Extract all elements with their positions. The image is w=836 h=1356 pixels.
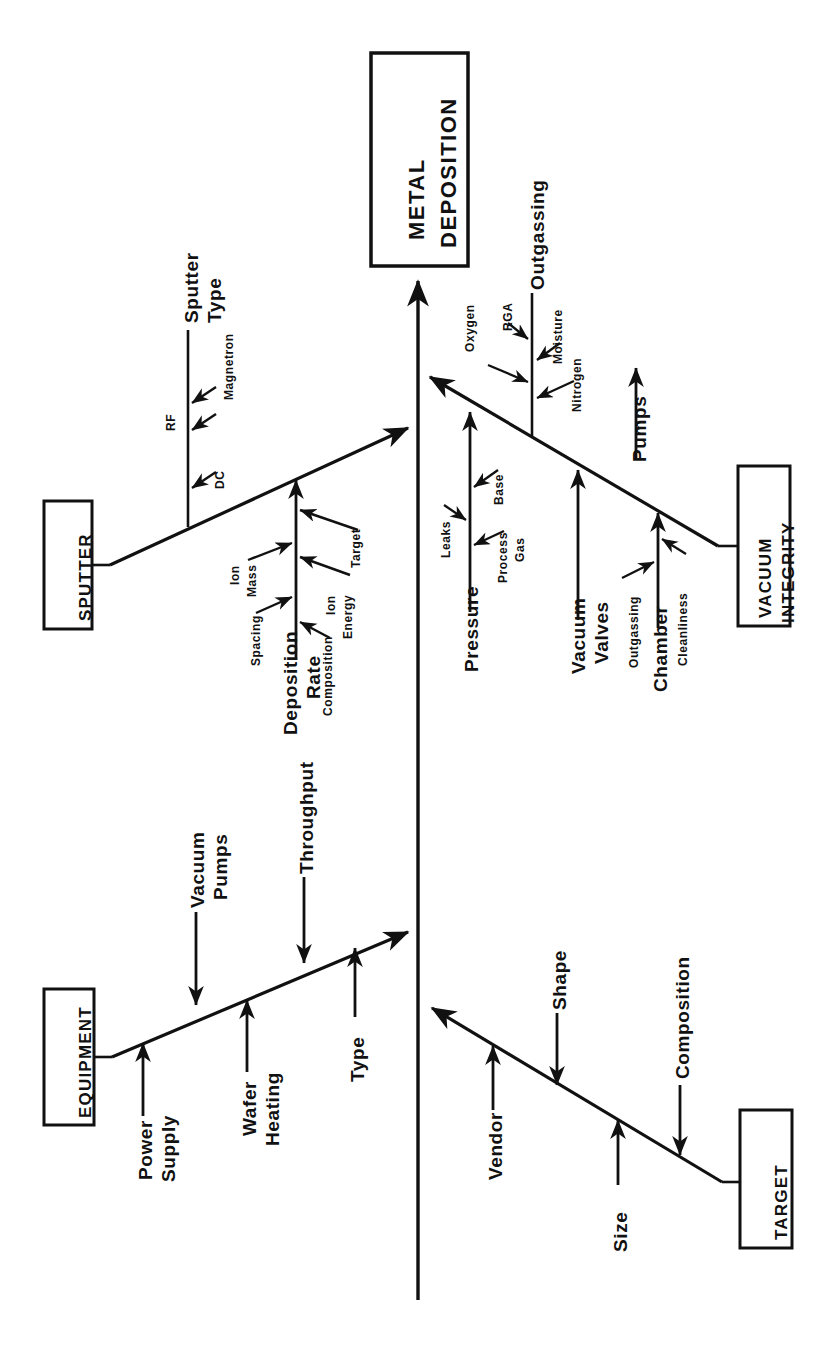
subcause-label-ion-mass-line2: Mass [246, 565, 260, 597]
cause-label-pumps: Pumps [630, 396, 651, 462]
twig-rf [192, 414, 216, 430]
cause-label-vacuum-pumps-line1: Vacuum [188, 832, 209, 908]
effect-label-line1: METAL [405, 158, 430, 240]
cause-label-vendor: Vendor [486, 1112, 507, 1180]
twig-cleanliness [662, 539, 686, 554]
cause-label-size: Size [611, 1212, 632, 1252]
effect-label-line2: DEPOSITION [437, 97, 462, 248]
cause-label-sputter-type-line1: Sputter [182, 252, 203, 323]
cause-label-vacuum-valves-line2: Valves [592, 601, 613, 664]
twig-magnetron [192, 387, 216, 403]
cause-label-vacuum-pumps-line2: Pumps [211, 834, 232, 900]
subcause-label-composition-dep: Composition [322, 636, 336, 716]
cause-label-type: Type [348, 1037, 369, 1082]
twig-ion-energy [300, 557, 350, 575]
subcause-label-nitrogen: Nitrogen [571, 358, 585, 412]
cause-label-vacuum-valves-line1: Vacuum [569, 598, 590, 674]
subcause-label-magnetron: Magnetron [223, 333, 237, 400]
cause-label-shape: Shape [550, 950, 571, 1010]
subcause-label-process-gas-line2: Gas [514, 538, 528, 562]
subcause-label-rf: RF [165, 414, 179, 431]
subcause-label-ion-energy-line2: Energy [342, 595, 356, 639]
category-label-equipment: EQUIPMENT [76, 1006, 96, 1118]
subcause-label-oxygen: Oxygen [464, 304, 478, 352]
twig-oxygen [488, 365, 528, 382]
cause-label-wafer-heating-line1: Wafer [240, 1081, 261, 1136]
subcause-label-dc: DC [214, 470, 228, 489]
twig-leaks [444, 505, 466, 520]
category-label-vacuum-line1: VACUUM [756, 537, 776, 618]
cause-label-power-supply-line2: Supply [159, 1115, 180, 1182]
subcause-label-ion-mass-line1: Ion [229, 565, 243, 585]
subcause-label-rga: RGA [502, 303, 516, 331]
fishbone-diagram-canvas: METAL DEPOSITION SPUTTER VACUUM INTEGRIT… [0, 0, 836, 1356]
category-label-target: TARGET [772, 1164, 792, 1240]
cause-label-wafer-heating-line2: Heating [263, 1072, 284, 1146]
subcause-label-process-gas-line1: Process [497, 532, 511, 583]
cause-label-deposition-rate-line1: Deposition [281, 631, 302, 735]
subcause-label-target: Target [350, 529, 364, 568]
cause-label-throughput: Throughput [297, 761, 318, 874]
cause-label-outgassing: Outgassing [528, 179, 549, 290]
subcause-label-cleanliness: Cleanliness [677, 593, 691, 666]
subcause-label-leaks: Leaks [440, 521, 454, 558]
subcause-label-ion-energy-line1: Ion [325, 595, 339, 615]
twig-spacing [256, 597, 292, 613]
cause-label-power-supply-line1: Power [136, 1120, 157, 1180]
twig-chamber-outgassing [622, 562, 654, 578]
subcause-label-moisture: Moisture [552, 309, 566, 364]
subcause-label-chamber-outgassing: Outgassing [628, 596, 642, 668]
twig-ion-mass [248, 543, 292, 560]
twig-nitrogen [537, 381, 574, 398]
cause-label-composition-target: Composition [673, 956, 694, 1079]
cause-label-sputter-type-line2: Type [205, 278, 226, 323]
category-label-vacuum-line2: INTEGRITY [779, 522, 799, 623]
cause-label-pressure: Pressure [462, 586, 483, 672]
cause-label-chamber: Chamber [651, 605, 672, 692]
subcause-label-spacing: Spacing [250, 615, 264, 666]
category-label-sputter: SPUTTER [76, 533, 96, 621]
twig-target [300, 510, 358, 530]
subcause-label-base: Base [493, 474, 507, 505]
